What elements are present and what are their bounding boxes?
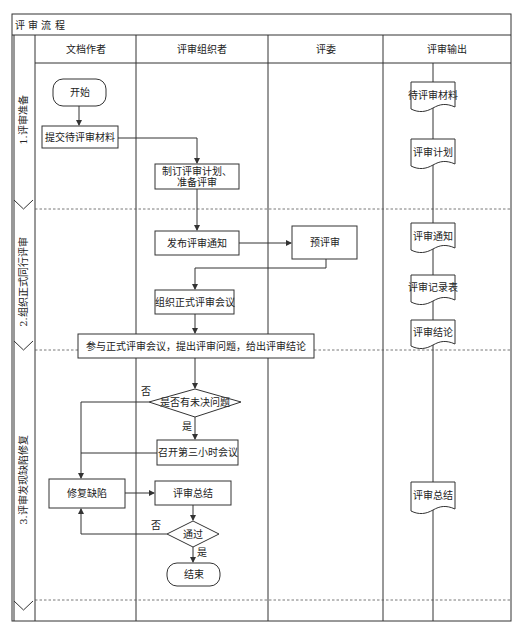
lane-header-organizer: 评审组织者 bbox=[177, 43, 227, 55]
edge-label-unresolved-yes: 是 bbox=[182, 421, 192, 432]
edge-submit-plan bbox=[118, 138, 197, 163]
review-process-flowchart: 评 审 流 程 文档作者 评审组织者 评委 评审输出 1.评审准备 2.组织正式… bbox=[0, 0, 522, 636]
phase-label-defect-fix: 3.评审发现缺陷修复 bbox=[17, 435, 29, 525]
node-prereview: 预评审 bbox=[292, 226, 357, 259]
node-fix-label: 修复缺陷 bbox=[67, 487, 107, 499]
node-third-hour-meeting: 召开第三小时会议 bbox=[157, 440, 238, 465]
node-decision-pass: 通过 bbox=[167, 521, 219, 547]
phase-chevron-2 bbox=[14, 341, 33, 350]
node-pass-label: 通过 bbox=[183, 528, 203, 540]
output-doc-review-materials: 待评审材料 bbox=[408, 82, 458, 112]
phase-label-formal-review: 2.组织正式同行评审 bbox=[17, 237, 29, 327]
output-doc-review-plan: 评审计划 bbox=[411, 139, 455, 169]
node-organize-meeting: 组织正式评审会议 bbox=[155, 290, 235, 314]
lane-header-author: 文档作者 bbox=[66, 43, 106, 55]
node-publish-notice: 发布评审通知 bbox=[155, 231, 239, 255]
lane-header-reviewers: 评委 bbox=[316, 43, 336, 55]
node-start-label: 开始 bbox=[70, 86, 90, 98]
diagram-title: 评 审 流 程 bbox=[15, 19, 65, 31]
node-organize-label: 组织正式评审会议 bbox=[155, 296, 235, 308]
node-attend-meeting: 参与正式评审会议，提出评审问题，给出评审结论 bbox=[78, 334, 314, 358]
output-doc-label: 待评审材料 bbox=[408, 89, 458, 101]
node-third-hour-label: 召开第三小时会议 bbox=[158, 446, 238, 458]
node-unresolved-label: 是否有未决问题 bbox=[160, 396, 230, 408]
output-doc-review-record: 评审记录表 bbox=[408, 275, 458, 305]
node-end: 结束 bbox=[167, 563, 220, 586]
node-submit-materials: 提交待评审材料 bbox=[42, 126, 118, 148]
node-plan-review: 制订评审计划、 准备评审 bbox=[155, 164, 239, 189]
node-plan-label-2: 准备评审 bbox=[177, 176, 217, 188]
node-fix-defects: 修复缺陷 bbox=[49, 479, 125, 508]
node-notice-label: 发布评审通知 bbox=[167, 237, 227, 249]
node-review-summary: 评审总结 bbox=[155, 481, 231, 505]
output-doc-review-conclusion: 评审结论 bbox=[411, 320, 455, 349]
edge-decision-fix bbox=[81, 402, 149, 478]
edge-label-pass-yes: 是 bbox=[197, 547, 207, 558]
node-prereview-label: 预评审 bbox=[310, 236, 340, 248]
node-plan-label-1: 制订评审计划、 bbox=[162, 165, 232, 177]
node-decision-unresolved: 是否有未决问题 bbox=[149, 389, 241, 417]
output-doc-label: 评审通知 bbox=[413, 230, 453, 242]
node-start: 开始 bbox=[53, 79, 106, 106]
output-doc-label: 评审记录表 bbox=[408, 281, 458, 293]
phase-chevron-1 bbox=[14, 200, 33, 209]
output-doc-review-notice: 评审通知 bbox=[411, 223, 455, 253]
node-end-label: 结束 bbox=[184, 568, 204, 580]
output-doc-label: 评审计划 bbox=[413, 146, 453, 158]
output-doc-review-summary: 评审总结 bbox=[411, 482, 455, 514]
edge-label-pass-no: 否 bbox=[151, 520, 161, 531]
output-doc-label: 评审总结 bbox=[413, 489, 453, 501]
lane-header-outputs: 评审输出 bbox=[427, 43, 467, 55]
node-submit-label: 提交待评审材料 bbox=[45, 131, 115, 143]
edge-prereview-organize bbox=[195, 259, 326, 289]
output-doc-label: 评审结论 bbox=[413, 326, 453, 338]
node-summary-label: 评审总结 bbox=[173, 487, 213, 499]
edge-label-unresolved-no: 否 bbox=[141, 386, 151, 397]
phase-chevron-3 bbox=[14, 601, 33, 610]
phase-label-preparation: 1.评审准备 bbox=[17, 95, 29, 145]
node-attend-label: 参与正式评审会议，提出评审问题，给出评审结论 bbox=[86, 340, 306, 352]
